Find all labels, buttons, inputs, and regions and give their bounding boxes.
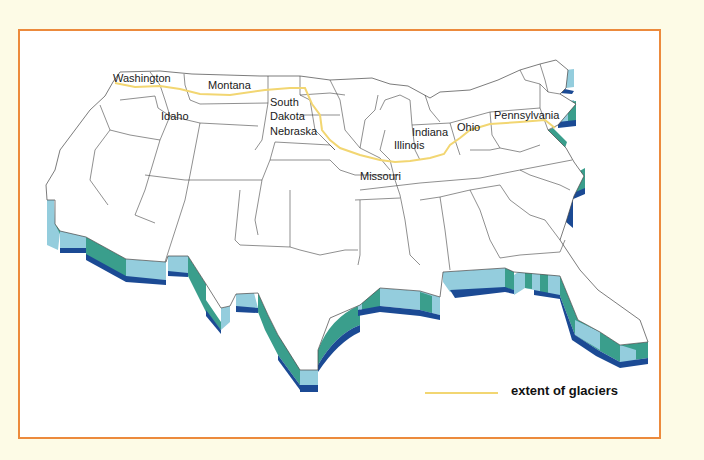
us-glacier-map: Washington Montana Idaho South Dakota Ne…	[0, 0, 704, 460]
label-missouri: Missouri	[360, 170, 401, 182]
label-indiana: Indiana	[412, 126, 449, 138]
label-nebraska: Nebraska	[270, 125, 318, 137]
label-south: South	[270, 96, 299, 108]
legend-label: extent of glaciers	[511, 383, 618, 398]
label-montana: Montana	[208, 79, 252, 91]
legend: extent of glaciers	[425, 383, 618, 398]
label-dakota: Dakota	[270, 110, 306, 122]
label-washington: Washington	[113, 72, 171, 84]
label-idaho: Idaho	[161, 110, 189, 122]
label-illinois: Illinois	[394, 139, 425, 151]
label-ohio: Ohio	[457, 121, 480, 133]
label-pennsylvania: Pennsylvania	[494, 109, 560, 121]
